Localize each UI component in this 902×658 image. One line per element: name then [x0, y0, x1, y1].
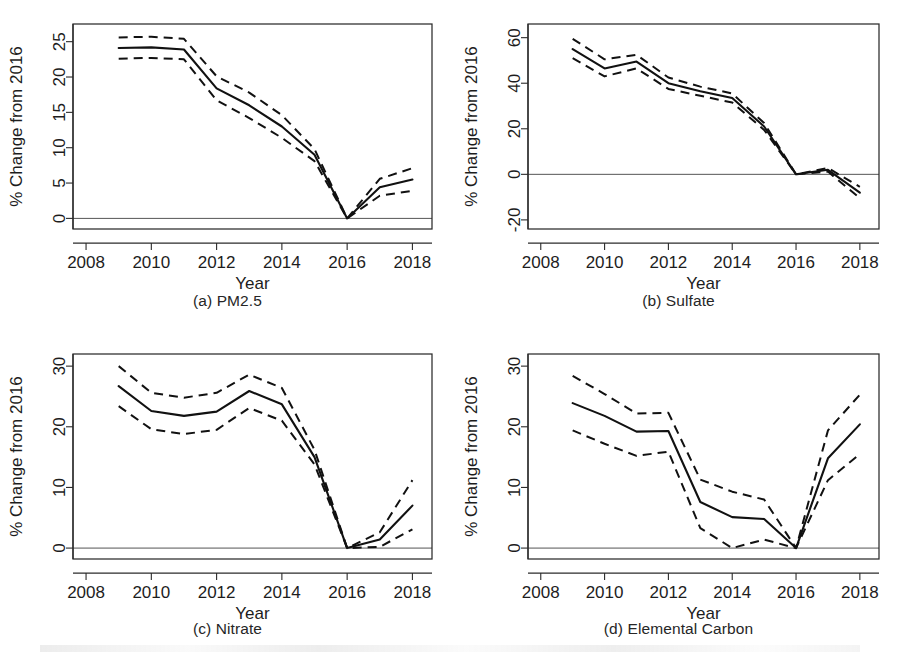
x-axis-tick-label: 2018	[841, 253, 879, 272]
y-axis-tick-label: 0	[506, 170, 525, 179]
x-axis-tick-label: 2016	[777, 253, 815, 272]
y-axis-tick-label: 30	[51, 357, 70, 376]
plot-frame	[528, 354, 879, 559]
series-line-estimate	[573, 403, 860, 548]
x-axis-tick-label: 2012	[198, 253, 236, 272]
panel-caption-pm25: (a) PM2.5	[0, 292, 455, 310]
series-line-lower-ci	[119, 58, 413, 218]
plot-frame	[73, 24, 432, 229]
y-axis-tick-label: -20	[506, 208, 525, 233]
x-axis-tick-label: 2010	[132, 253, 170, 272]
series-line-upper-ci	[573, 39, 860, 187]
figure-panel-grid: 0510152025% Change from 2016200820102012…	[0, 0, 902, 658]
y-axis-tick-label: 30	[506, 357, 525, 376]
x-axis-tick-label: 2012	[649, 583, 687, 602]
x-axis-title: Year	[686, 274, 721, 293]
y-axis-tick-label: 20	[506, 417, 525, 436]
panel-elemental-carbon: 0102030% Change from 2016200820102012201…	[455, 330, 902, 658]
y-axis-tick-label: 0	[51, 214, 70, 223]
panel-caption-nitrate: (c) Nitrate	[0, 620, 455, 638]
x-axis-tick-label: 2016	[777, 583, 815, 602]
panel-caption-elemental-carbon: (d) Elemental Carbon	[455, 620, 902, 638]
x-axis-tick-label: 2010	[586, 583, 624, 602]
x-axis-tick-label: 2016	[328, 583, 366, 602]
chart-nitrate: 0102030% Change from 2016200820102012201…	[0, 330, 455, 658]
x-axis-tick-label: 2012	[649, 253, 687, 272]
y-axis-tick-label: 0	[506, 543, 525, 552]
chart-sulfate: -200204060% Change from 2016200820102012…	[455, 0, 902, 330]
x-axis-tick-label: 2014	[713, 253, 751, 272]
x-axis-tick-label: 2008	[522, 583, 560, 602]
chart-elemental-carbon: 0102030% Change from 2016200820102012201…	[455, 330, 902, 658]
x-axis-title: Year	[235, 274, 270, 293]
x-axis-tick-label: 2016	[328, 253, 366, 272]
y-axis-title: % Change from 2016	[462, 376, 481, 537]
y-axis-tick-label: 20	[51, 417, 70, 436]
x-axis-tick-label: 2008	[522, 253, 560, 272]
y-axis-tick-label: 10	[51, 478, 70, 497]
y-axis-tick-label: 15	[51, 103, 70, 122]
y-axis-tick-label: 20	[506, 119, 525, 138]
y-axis-tick-label: 25	[51, 32, 70, 51]
series-line-lower-ci	[119, 406, 413, 548]
plot-frame	[73, 354, 432, 559]
y-axis-title: % Change from 2016	[462, 46, 481, 207]
cropped-caption-artifact	[40, 645, 860, 652]
panel-pm25: 0510152025% Change from 2016200820102012…	[0, 0, 455, 330]
series-line-upper-ci	[573, 376, 860, 548]
y-axis-tick-label: 0	[51, 543, 70, 552]
y-axis-tick-label: 5	[51, 178, 70, 187]
panel-caption-sulfate: (b) Sulfate	[455, 292, 902, 310]
x-axis-tick-label: 2012	[198, 583, 236, 602]
panel-nitrate: 0102030% Change from 2016200820102012201…	[0, 330, 455, 658]
x-axis-tick-label: 2014	[713, 583, 751, 602]
series-line-estimate	[119, 386, 413, 548]
x-axis-tick-label: 2018	[841, 583, 879, 602]
x-axis-tick-label: 2010	[586, 253, 624, 272]
x-axis-tick-label: 2010	[132, 583, 170, 602]
y-axis-tick-label: 20	[51, 68, 70, 87]
x-axis-tick-label: 2014	[263, 253, 301, 272]
y-axis-title: % Change from 2016	[7, 376, 26, 537]
chart-pm25: 0510152025% Change from 2016200820102012…	[0, 0, 455, 330]
x-axis-tick-label: 2008	[67, 253, 105, 272]
x-axis-tick-label: 2014	[263, 583, 301, 602]
x-axis-tick-label: 2018	[394, 253, 432, 272]
y-axis-tick-label: 60	[506, 28, 525, 47]
series-line-lower-ci	[573, 58, 860, 198]
x-axis-tick-label: 2008	[67, 583, 105, 602]
x-axis-tick-label: 2018	[394, 583, 432, 602]
y-axis-tick-label: 10	[506, 478, 525, 497]
y-axis-tick-label: 40	[506, 74, 525, 93]
y-axis-tick-label: 10	[51, 138, 70, 157]
y-axis-title: % Change from 2016	[7, 46, 26, 207]
panel-sulfate: -200204060% Change from 2016200820102012…	[455, 0, 902, 330]
series-line-upper-ci	[119, 366, 413, 548]
